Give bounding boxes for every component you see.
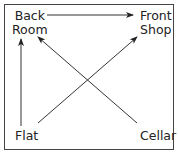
node-back-room: Back Room (12, 9, 48, 37)
node-back-room-line2: Room (12, 23, 48, 37)
node-front-shop-line2: Shop (140, 23, 172, 37)
node-back-room-line1: Back (12, 9, 48, 23)
node-front-shop: Front Shop (140, 9, 172, 37)
node-cellar: Cellar (140, 129, 176, 143)
node-flat: Flat (15, 129, 38, 143)
node-front-shop-line1: Front (140, 9, 172, 23)
